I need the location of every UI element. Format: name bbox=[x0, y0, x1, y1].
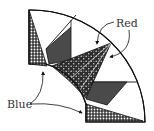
label-red: Red bbox=[116, 17, 138, 30]
arrow-blue-2 bbox=[30, 104, 82, 113]
label-blue: Blue bbox=[7, 98, 32, 111]
quilt-fan-diagram: Red Blue bbox=[0, 0, 154, 131]
